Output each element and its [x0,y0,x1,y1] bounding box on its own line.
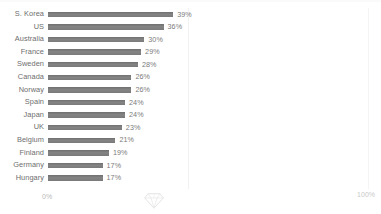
bar[interactable] [48,125,122,130]
bar-value-label: 24% [129,97,144,110]
bar-track: 19% [48,150,369,155]
bar[interactable] [48,163,103,168]
bar-track: 30% [48,37,369,42]
bar[interactable] [48,49,141,54]
bar-chart: S. Korea39%US36%Australia30%France29%Swe… [0,0,381,214]
bar[interactable] [48,150,109,155]
category-label: Australia [0,33,44,46]
bar[interactable] [48,138,115,143]
category-label: S. Korea [0,8,44,21]
bar-value-label: 17% [107,160,122,173]
category-label: Canada [0,71,44,84]
bar-track: 17% [48,175,369,180]
bar-value-label: 39% [177,9,192,22]
bar[interactable] [48,62,138,67]
bar[interactable] [48,12,173,17]
bar-rows: S. Korea39%US36%Australia30%France29%Swe… [0,8,381,184]
category-label: Japan [0,109,44,122]
bar-row: UK23% [0,121,381,134]
axis-min-label: 0% [42,193,52,200]
bar-row: France29% [0,46,381,59]
category-label: Norway [0,84,44,97]
bar-track: 21% [48,138,369,143]
bar-value-label: 30% [148,34,163,47]
bar[interactable] [48,24,164,29]
category-label: Sweden [0,58,44,71]
bar[interactable] [48,100,125,105]
category-label: Hungary [0,172,44,185]
bar[interactable] [48,112,125,117]
category-label: UK [0,121,44,134]
bar[interactable] [48,87,131,92]
bar-value-label: 29% [145,46,160,59]
bar-track: 36% [48,24,369,29]
bar-row: Australia30% [0,33,381,46]
bar-row: Finland19% [0,147,381,160]
bar-row: Sweden28% [0,58,381,71]
bar-row: Spain24% [0,96,381,109]
bar-track: 29% [48,49,369,54]
bar-value-label: 28% [142,59,157,72]
bar-value-label: 19% [113,147,128,160]
bar-track: 17% [48,163,369,168]
bar-value-label: 17% [107,172,122,185]
bar-row: Canada26% [0,71,381,84]
category-label: France [0,46,44,59]
axis-max-label: 100% [357,191,375,198]
bar-value-label: 36% [168,21,183,34]
bar-row: Norway26% [0,84,381,97]
bar-value-label: 26% [135,84,150,97]
bar[interactable] [48,37,144,42]
bar[interactable] [48,175,103,180]
category-label: Belgium [0,134,44,147]
bar-row: S. Korea39% [0,8,381,21]
bar-row: Japan24% [0,109,381,122]
bar-row: Belgium21% [0,134,381,147]
bar-track: 23% [48,125,369,130]
category-label: Finland [0,147,44,160]
bar-track: 24% [48,100,369,105]
category-label: US [0,21,44,34]
bar-track: 28% [48,62,369,67]
bar-value-label: 24% [129,109,144,122]
bar-track: 39% [48,12,369,17]
bar-track: 26% [48,87,369,92]
bar-value-label: 21% [119,134,134,147]
bar-value-label: 23% [126,122,141,135]
bar-value-label: 26% [135,71,150,84]
bar-row: US36% [0,21,381,34]
bar-track: 24% [48,112,369,117]
category-label: Germany [0,159,44,172]
bar[interactable] [48,75,131,80]
top-edge-artifact [0,0,381,2]
bar-row: Germany17% [0,159,381,172]
bar-row: Hungary17% [0,172,381,185]
diamond-icon [143,192,165,209]
category-label: Spain [0,96,44,109]
bar-track: 26% [48,75,369,80]
